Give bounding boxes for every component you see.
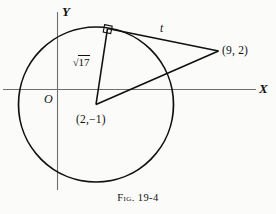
figure-container: Y X O √17 t (9, 2) (2,−1) Fig. 19-4 xyxy=(0,0,276,214)
caption-prefix: Fig. xyxy=(117,192,134,203)
external-point-label: (9, 2) xyxy=(222,45,248,57)
center-point-label: (2,−1) xyxy=(76,114,106,126)
geometry-diagram xyxy=(0,0,276,214)
radius-length-label: √17 xyxy=(73,57,90,68)
radicand-value: 17 xyxy=(78,55,90,68)
x-axis-label: X xyxy=(259,82,268,95)
center-to-external-segment xyxy=(96,51,219,105)
y-axis-label: Y xyxy=(62,5,70,18)
radius-segment xyxy=(96,29,108,105)
caption-number: 19-4 xyxy=(138,192,159,203)
figure-caption: Fig. 19-4 xyxy=(0,192,276,203)
radical-sign: √ xyxy=(73,57,79,68)
tangent-length-label: t xyxy=(160,23,163,35)
origin-label: O xyxy=(44,93,53,105)
